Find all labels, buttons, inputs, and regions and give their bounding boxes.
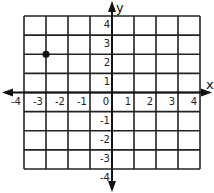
- x-tick-label: 2: [147, 96, 153, 107]
- y-tick-label: -1: [100, 115, 110, 126]
- y-axis-up-arrow-icon: [108, 1, 116, 12]
- y-tick-label: -3: [100, 153, 110, 164]
- x-tick-label: -2: [55, 96, 65, 107]
- x-tick-label: 4: [191, 96, 197, 107]
- data-points: [42, 51, 49, 58]
- tick-labels: -4-3-2-101234-4-3-2-11234: [11, 19, 197, 183]
- x-tick-label: 1: [125, 96, 131, 107]
- data-point: [42, 51, 49, 58]
- y-tick-label: 2: [104, 57, 110, 68]
- y-tick-label: -4: [100, 172, 110, 183]
- x-tick-label: -3: [33, 96, 43, 107]
- x-tick-label: 0: [103, 96, 109, 107]
- coordinate-plane: -4-3-2-101234-4-3-2-11234 x y: [0, 0, 214, 193]
- y-tick-label: 4: [104, 19, 110, 30]
- y-tick-label: 1: [104, 76, 110, 87]
- y-tick-label: 3: [104, 38, 110, 49]
- x-tick-label: -1: [77, 96, 87, 107]
- x-axis-label: x: [206, 77, 214, 92]
- y-axis-label: y: [116, 0, 124, 15]
- x-tick-label: 3: [169, 96, 175, 107]
- y-tick-label: -2: [100, 134, 110, 145]
- x-tick-label: -4: [11, 96, 21, 107]
